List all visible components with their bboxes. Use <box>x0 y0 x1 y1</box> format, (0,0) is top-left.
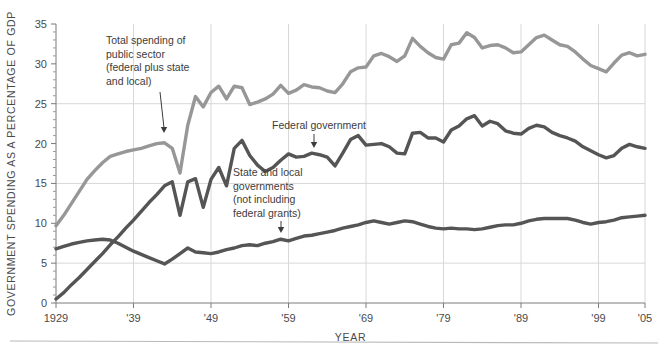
annotation-total-line-2: public sector <box>106 48 165 60</box>
y-tick-label-0: 0 <box>41 297 47 309</box>
x-tick-label-1989: '89 <box>514 312 528 324</box>
x-tick-label-1949: '49 <box>204 312 218 324</box>
annotation-total-leader-line <box>160 92 164 128</box>
annotation-total: Total spending ofpublic sector(federal p… <box>106 34 190 133</box>
y-tick-label-35: 35 <box>35 18 47 30</box>
x-tick-label-1959: '59 <box>281 312 295 324</box>
x-tick-label-1999: '99 <box>591 312 605 324</box>
annotation-state-local-line-2: governments <box>233 180 294 192</box>
annotation-total-line-1: Total spending of <box>106 34 185 46</box>
x-axis-title: YEAR <box>335 331 366 343</box>
y-tick-label-15: 15 <box>35 177 47 189</box>
annotation-total-line-4: and local) <box>106 75 152 87</box>
annotation-total-arrowhead <box>161 127 167 133</box>
y-tick-label-5: 5 <box>41 257 47 269</box>
y-tick-label-25: 25 <box>35 98 47 110</box>
annotation-state-local-line-4: federal grants) <box>233 207 301 219</box>
chart-figure: 051015202530351929'39'49'59'69'79'89'99'… <box>0 0 668 351</box>
annotation-state-local-arrowhead <box>278 227 284 233</box>
y-tick-label-10: 10 <box>35 217 47 229</box>
annotation-federal: Federal government <box>272 119 366 148</box>
x-tick-label-1929: 1929 <box>44 312 68 324</box>
x-tick-label-2005: '05 <box>638 312 652 324</box>
series-line-state_local <box>56 215 645 264</box>
x-tick-label-1939: '39 <box>126 312 140 324</box>
x-tick-label-1979: '79 <box>436 312 450 324</box>
annotation-state-local: State and localgovernments(not including… <box>233 166 302 233</box>
annotation-total-line-3: (federal plus state <box>106 61 190 73</box>
x-tick-label-1969: '69 <box>359 312 373 324</box>
annotation-state-local-line-1: State and local <box>233 166 302 178</box>
y-tick-label-20: 20 <box>35 138 47 150</box>
y-axis-title: GOVERNMENT SPENDING AS A PERCENTAGE OF G… <box>5 11 17 316</box>
government-spending-line-chart: 051015202530351929'39'49'59'69'79'89'99'… <box>0 0 668 351</box>
annotation-federal-line-1: Federal government <box>272 119 366 131</box>
y-tick-label-30: 30 <box>35 58 47 70</box>
annotation-federal-arrowhead <box>311 142 317 148</box>
series-line-federal <box>56 116 645 299</box>
annotation-state-local-line-3: (not including <box>233 193 296 205</box>
annotations: Total spending ofpublic sector(federal p… <box>106 34 366 233</box>
